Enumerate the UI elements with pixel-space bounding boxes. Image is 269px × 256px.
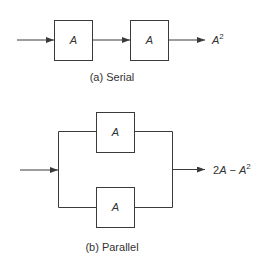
parallel-caption: (b) Parallel: [85, 241, 138, 253]
serial-diagram: A A A2 (a) Serial: [17, 21, 224, 84]
parallel-block-bottom-label: A: [111, 201, 119, 213]
serial-caption: (a) Serial: [90, 71, 135, 83]
parallel-output-label: 2A − A2: [213, 162, 251, 176]
parallel-left-bus: [59, 132, 97, 208]
serial-block-2-label: A: [145, 34, 153, 46]
serial-output-label: A2: [211, 32, 224, 46]
parallel-diagram: A A 2A − A2 (b) Parallel: [20, 113, 251, 254]
reliability-diagram: A A A2 (a) Serial A A 2A − A2 (b) Parall…: [0, 0, 269, 256]
parallel-right-bus: [135, 132, 173, 208]
parallel-block-top-label: A: [111, 126, 119, 138]
serial-block-1-label: A: [69, 34, 77, 46]
